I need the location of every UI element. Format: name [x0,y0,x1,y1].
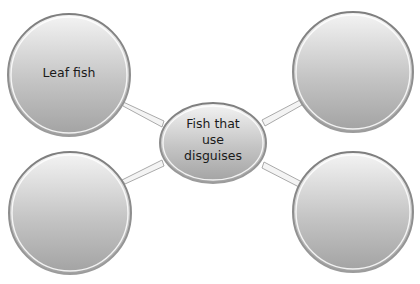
connector-top-left [121,101,164,127]
bubble-bottom-left-area[interactable] [9,152,131,274]
bubble-top-left-area[interactable] [8,14,130,136]
bubble-top-right-area[interactable] [293,12,413,132]
connector-bottom-left [122,160,164,184]
connector-top-right [262,100,302,126]
center-bubble [160,103,266,183]
connector-bottom-right [262,162,302,187]
bubble-bottom-right-area[interactable] [293,152,413,272]
